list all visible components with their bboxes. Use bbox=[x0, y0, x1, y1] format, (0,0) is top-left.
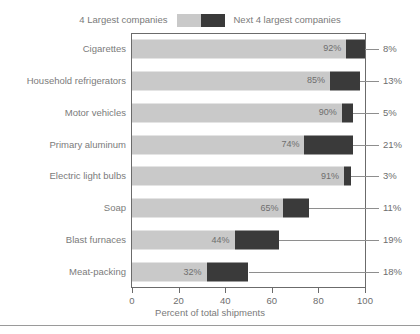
bar-segment-next4 bbox=[283, 199, 309, 218]
leader-line bbox=[249, 272, 380, 273]
x-axis-tick-label: 60 bbox=[267, 296, 278, 306]
bar-value-next4: 18% bbox=[383, 267, 402, 277]
bar-segment-largest4: 44% bbox=[132, 231, 235, 250]
chart-legend: 4 Largest companies Next 4 largest compa… bbox=[0, 11, 420, 29]
category-label: Blast furnaces bbox=[66, 235, 126, 245]
bar-segment-largest4: 65% bbox=[132, 199, 283, 218]
x-axis-tick bbox=[132, 288, 133, 293]
bar-value-largest4: 65% bbox=[260, 204, 278, 213]
bar-segment-next4 bbox=[342, 103, 354, 122]
leader-line bbox=[360, 81, 379, 82]
x-axis-tick bbox=[318, 288, 319, 293]
stacked-bar: 91% bbox=[132, 167, 365, 186]
leader-line bbox=[353, 145, 379, 146]
bar-segment-largest4: 32% bbox=[132, 263, 207, 282]
legend-swatches bbox=[177, 14, 225, 27]
x-axis-tick-label: 80 bbox=[313, 296, 324, 306]
x-axis-tick bbox=[272, 288, 273, 293]
x-axis-tick bbox=[179, 288, 180, 293]
bar-row: Blast furnaces44%19% bbox=[0, 226, 420, 254]
legend-swatch-light bbox=[177, 14, 201, 27]
category-label: Motor vehicles bbox=[65, 108, 126, 118]
bar-value-next4: 8% bbox=[383, 44, 397, 54]
bar-value-largest4: 74% bbox=[281, 140, 299, 149]
bar-value-largest4: 91% bbox=[321, 172, 339, 181]
x-axis-tick-label: 20 bbox=[173, 296, 184, 306]
bar-segment-next4 bbox=[207, 263, 249, 282]
bar-value-next4: 13% bbox=[383, 76, 402, 86]
bar-rows: Cigarettes92%8%Household refrigerators85… bbox=[0, 33, 420, 288]
bar-segment-next4 bbox=[346, 39, 365, 58]
bar-segment-largest4: 85% bbox=[132, 71, 330, 90]
bar-segment-next4 bbox=[330, 71, 360, 90]
bar-value-next4: 19% bbox=[383, 235, 402, 245]
leader-line bbox=[309, 208, 379, 209]
bar-value-next4: 5% bbox=[383, 108, 397, 118]
bar-row: Electric light bulbs91%3% bbox=[0, 162, 420, 190]
category-label: Meat-packing bbox=[69, 267, 126, 277]
stacked-bar: 92% bbox=[132, 39, 365, 58]
bar-value-largest4: 32% bbox=[184, 268, 202, 277]
leader-line bbox=[279, 240, 379, 241]
bar-row: Cigarettes92%8% bbox=[0, 35, 420, 63]
bar-value-next4: 3% bbox=[383, 172, 397, 182]
x-axis-title: Percent of total shipments bbox=[0, 308, 420, 318]
stacked-bar: 74% bbox=[132, 135, 365, 154]
bar-row: Primary aluminum74%21% bbox=[0, 131, 420, 159]
legend-label-right: Next 4 largest companies bbox=[234, 15, 341, 25]
category-label: Cigarettes bbox=[83, 44, 126, 54]
bar-segment-largest4: 90% bbox=[132, 103, 342, 122]
bar-segment-largest4: 74% bbox=[132, 135, 304, 154]
bar-value-largest4: 85% bbox=[307, 76, 325, 85]
bar-row: Household refrigerators85%13% bbox=[0, 67, 420, 95]
category-label: Soap bbox=[104, 204, 126, 214]
legend-swatch-dark bbox=[201, 14, 225, 27]
stacked-bar: 85% bbox=[132, 71, 365, 90]
category-label: Primary aluminum bbox=[49, 140, 126, 150]
category-label: Electric light bulbs bbox=[49, 172, 126, 182]
stacked-bar: 90% bbox=[132, 103, 365, 122]
bar-row: Motor vehicles90%5% bbox=[0, 99, 420, 127]
bar-row: Soap65%11% bbox=[0, 194, 420, 222]
bottom-divider bbox=[0, 325, 420, 326]
x-axis-tick bbox=[225, 288, 226, 293]
bar-value-next4: 11% bbox=[383, 204, 401, 214]
bar-segment-next4 bbox=[344, 167, 351, 186]
bar-segment-next4 bbox=[304, 135, 353, 154]
x-axis-tick-label: 0 bbox=[129, 296, 134, 306]
bar-row: Meat-packing32%18% bbox=[0, 258, 420, 286]
x-axis-tick-label: 100 bbox=[357, 296, 373, 306]
leader-line bbox=[365, 49, 379, 50]
leader-line bbox=[353, 113, 379, 114]
x-axis-tick-label: 40 bbox=[220, 296, 231, 306]
bar-segment-largest4: 91% bbox=[132, 167, 344, 186]
category-label: Household refrigerators bbox=[27, 76, 126, 86]
bar-segment-next4 bbox=[235, 231, 279, 250]
x-axis-tick bbox=[365, 288, 366, 293]
bar-value-largest4: 90% bbox=[319, 108, 337, 117]
leader-line bbox=[351, 176, 379, 177]
bar-value-largest4: 44% bbox=[212, 236, 230, 245]
bar-value-next4: 21% bbox=[383, 140, 402, 150]
bar-value-largest4: 92% bbox=[323, 44, 341, 53]
bar-segment-largest4: 92% bbox=[132, 39, 346, 58]
legend-label-left: 4 Largest companies bbox=[79, 15, 167, 25]
